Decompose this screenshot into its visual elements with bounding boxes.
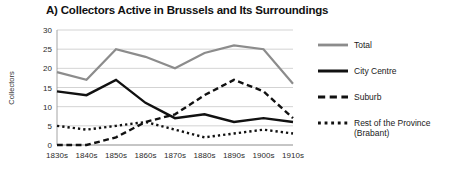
legend-label: City Centre: [354, 66, 397, 76]
y-tick-label: 0: [48, 141, 53, 150]
y-tick-label: 5: [48, 122, 53, 131]
x-tick-labels-group: 1830s1840s1850s1860s1870s1880s1890s1900s…: [46, 151, 304, 160]
x-tick-label: 1910s: [282, 151, 304, 160]
y-tick-label: 15: [43, 84, 52, 93]
y-tick-label: 10: [43, 103, 52, 112]
y-tick-label: 30: [43, 26, 52, 35]
y-axis-title: Collectors: [7, 71, 16, 105]
series-paths-group: [57, 45, 293, 145]
y-tick-label: 25: [43, 45, 52, 54]
x-tick-label: 1870s: [164, 151, 186, 160]
legend-label: Suburb: [354, 92, 382, 102]
legend-label: Total: [354, 40, 372, 50]
chart-figure: A) Collectors Active in Brussels and Its…: [0, 0, 450, 169]
x-tick-label: 1850s: [105, 151, 127, 160]
x-tick-label: 1900s: [253, 151, 275, 160]
series-line-suburb: [57, 80, 293, 145]
plot-area-wrapper: Collectors 051015202530 1830s1840s1850s1…: [0, 22, 450, 169]
gridlines-group: [57, 30, 293, 145]
series-line-city-centre: [57, 80, 293, 122]
series-line-rest-of-the-province-brabant: [57, 122, 293, 137]
legend-label-line2: (Brabant): [354, 128, 390, 138]
line-chart-svg: Collectors 051015202530 1830s1840s1850s1…: [0, 22, 450, 169]
y-tick-labels-group: 051015202530: [43, 26, 52, 150]
x-tick-label: 1880s: [194, 151, 216, 160]
x-tick-label: 1890s: [223, 151, 245, 160]
y-tick-label: 20: [43, 64, 52, 73]
legend: TotalCity CentreSuburbRest of the Provin…: [318, 40, 431, 138]
x-tick-label: 1830s: [46, 151, 68, 160]
x-tick-label: 1860s: [135, 151, 157, 160]
legend-label: Rest of the Province: [354, 118, 431, 128]
series-line-total: [57, 45, 293, 83]
chart-title: A) Collectors Active in Brussels and Its…: [46, 3, 406, 17]
x-tick-label: 1840s: [76, 151, 98, 160]
